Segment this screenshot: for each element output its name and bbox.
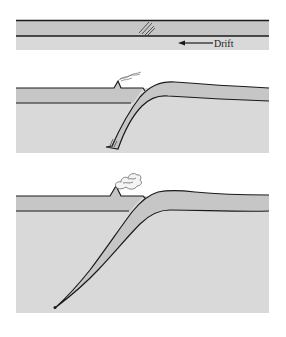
drift-label: Drift — [214, 38, 234, 49]
panel-stage-1: Drift — [16, 20, 269, 50]
smoke-plume-icon — [119, 72, 141, 81]
panel-stage-2 — [16, 72, 269, 153]
overriding-plate — [16, 81, 143, 103]
slab-tip — [54, 306, 57, 309]
eruption-cloud-icon — [115, 174, 141, 190]
overriding-plate — [16, 186, 143, 211]
panel-stage-3 — [16, 174, 269, 313]
subduction-diagram: Drift — [0, 0, 286, 337]
